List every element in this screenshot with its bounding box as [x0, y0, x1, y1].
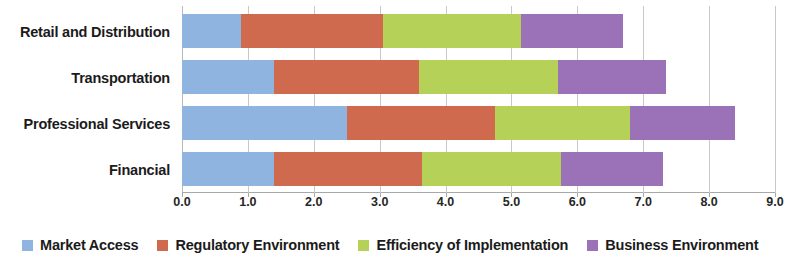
category-label-3: Financial [0, 163, 170, 178]
gridline [775, 6, 776, 193]
x-axis-tick-label: 7.0 [635, 196, 652, 209]
category-label-1: Transportation [0, 71, 170, 86]
chart-legend: Market AccessRegulatory EnvironmentEffic… [0, 234, 790, 256]
x-axis-tick-labels: 0.01.02.03.04.05.06.07.08.09.0 [182, 196, 775, 216]
legend-item[interactable]: Market Access [22, 238, 138, 253]
legend-label: Regulatory Environment [175, 238, 339, 253]
bar-segment [495, 106, 630, 140]
bar-segment [347, 106, 495, 140]
legend-swatch-icon [358, 240, 369, 251]
bar-segment [630, 106, 735, 140]
bar-segment [419, 60, 557, 94]
x-axis-tick-label: 8.0 [700, 196, 717, 209]
legend-swatch-icon [22, 240, 33, 251]
bar-segment [182, 106, 347, 140]
legend-label: Market Access [40, 238, 138, 253]
x-axis-tick-label: 4.0 [437, 196, 454, 209]
legend-item[interactable]: Regulatory Environment [157, 238, 339, 253]
legend-label: Business Environment [605, 238, 758, 253]
x-axis-tick-label: 0.0 [173, 196, 190, 209]
bar-segment [274, 152, 422, 186]
bar-segment [182, 60, 274, 94]
legend-swatch-icon [587, 240, 598, 251]
category-label-0: Retail and Distribution [0, 25, 170, 40]
x-axis-tick-label: 1.0 [239, 196, 256, 209]
bar-segment [182, 14, 241, 48]
bar-segment [182, 152, 274, 186]
bar-segment [383, 14, 521, 48]
legend-item[interactable]: Business Environment [587, 238, 758, 253]
legend-swatch-icon [157, 240, 168, 251]
category-axis: Retail and Distribution Transportation P… [0, 0, 176, 196]
x-axis-tick-label: 2.0 [305, 196, 322, 209]
x-axis-tick-label: 5.0 [503, 196, 520, 209]
bar-segment [521, 14, 623, 48]
legend-item[interactable]: Efficiency of Implementation [358, 238, 568, 253]
legend-label: Efficiency of Implementation [376, 238, 568, 253]
x-axis-tick-label: 6.0 [569, 196, 586, 209]
bar-segment [558, 60, 667, 94]
bar-segment [422, 152, 560, 186]
x-axis-tick-label: 9.0 [766, 196, 783, 209]
x-axis-line [182, 192, 775, 193]
gridline [709, 6, 710, 193]
bar-segment [561, 152, 663, 186]
bar-segment [274, 60, 419, 94]
plot-area [182, 6, 775, 193]
category-label-2: Professional Services [0, 117, 170, 132]
stacked-bar-chart: Retail and Distribution Transportation P… [0, 0, 790, 262]
bar-segment [241, 14, 383, 48]
x-axis-tick-label: 3.0 [371, 196, 388, 209]
